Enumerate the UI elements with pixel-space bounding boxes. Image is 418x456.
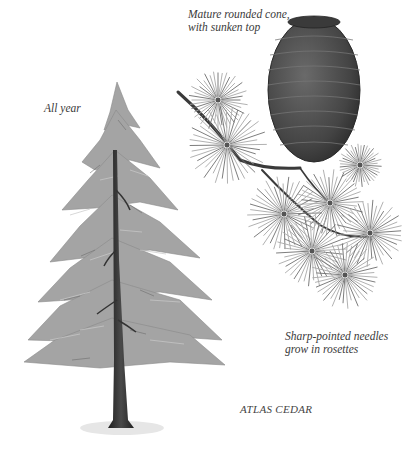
needles-caption-line2: grow in rosettes	[285, 343, 388, 356]
needles-caption-line1: Sharp-pointed needles	[285, 330, 388, 343]
cone-caption-line1: Mature rounded cone,	[188, 8, 290, 21]
needle-rosette	[339, 144, 381, 187]
needles-caption: Sharp-pointed needles grow in rosettes	[285, 330, 388, 356]
cone-caption: Mature rounded cone, with sunken top	[188, 8, 290, 34]
season-label: All year	[44, 102, 81, 115]
cedar-illustration	[0, 0, 418, 456]
cedar-cone	[268, 16, 360, 162]
cone-caption-line2: with sunken top	[188, 21, 290, 34]
species-title: ATLAS CEDAR	[240, 403, 312, 415]
tree-foliage	[24, 82, 225, 368]
needle-rosette	[190, 106, 267, 183]
